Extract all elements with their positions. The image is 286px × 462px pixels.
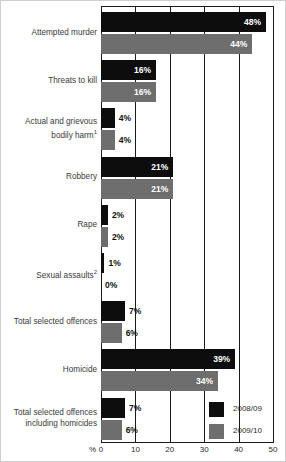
bar-value-label: 6% [126, 323, 138, 343]
legend-label: 2008/09 [233, 404, 262, 413]
x-tick-label-20: 20 [165, 445, 174, 454]
bar-value-label: 7% [129, 301, 141, 321]
legend-item[interactable]: 2008/09 [209, 400, 281, 422]
bar-2008-09 [101, 12, 266, 32]
legend-swatch-icon [209, 424, 224, 439]
category-label: Attempted murder [5, 28, 97, 39]
bar-value-label: 4% [119, 130, 131, 150]
bar-2008-09 [101, 205, 108, 225]
bar-value-label: 44% [230, 34, 247, 54]
bar-2008-09 [101, 398, 125, 418]
x-tick-label-50: 50 [269, 445, 278, 454]
bar-value-label: 2% [112, 227, 124, 247]
bar-2009-10 [101, 227, 108, 247]
bar-row: 2%2% [101, 205, 273, 247]
bar-2008-09 [101, 253, 104, 273]
category-label: Rape [5, 220, 97, 231]
category-label: Actual and grievous bodily harm1 [5, 117, 97, 142]
legend-label: 2009/10 [233, 426, 262, 435]
legend-item[interactable]: 2009/10 [209, 422, 281, 444]
x-tick-label-10: 10 [131, 445, 140, 454]
bar-value-label: 4% [119, 108, 131, 128]
gridline-50 [273, 6, 274, 443]
chart-figure: 48%44%16%16%4%4%21%21%2%2%1%0%7%6%39%34%… [0, 0, 286, 462]
bar-value-label: 16% [134, 60, 151, 80]
bar-row: 7%6% [101, 301, 273, 343]
bar-value-label: 1% [108, 253, 120, 273]
bar-2009-10 [101, 130, 115, 150]
bar-row: 4%4% [101, 108, 273, 150]
x-tick-label-0: 0 [99, 445, 103, 454]
bar-value-label: 16% [134, 82, 151, 102]
bar-row: 21%21% [101, 157, 273, 199]
bar-value-label: 7% [129, 398, 141, 418]
bar-value-label: 0% [105, 275, 117, 295]
category-label: Total selected offences [5, 317, 97, 328]
bar-value-label: 6% [126, 420, 138, 440]
bar-value-label: 21% [151, 157, 168, 177]
x-axis-unit-label: % [89, 445, 96, 454]
bar-2009-10 [101, 323, 122, 343]
category-label: Threats to kill [5, 76, 97, 87]
bar-row: 1%0% [101, 253, 273, 295]
x-tick-label-40: 40 [234, 445, 243, 454]
plot-area: 48%44%16%16%4%4%21%21%2%2%1%0%7%6%39%34%… [101, 6, 273, 443]
bar-row: 16%16% [101, 60, 273, 102]
axis-top-line [101, 6, 273, 7]
bar-2008-09 [101, 301, 125, 321]
bar-value-label: 48% [244, 12, 261, 32]
bar-row: 39%34% [101, 349, 273, 391]
bar-value-label: 39% [213, 349, 230, 369]
bar-value-label: 34% [196, 371, 213, 391]
category-label: Sexual assaults2 [5, 267, 97, 281]
bar-row: 48%44% [101, 12, 273, 54]
x-axis: % 01020304050 [1, 445, 286, 461]
category-label: Homicide [5, 365, 97, 376]
bar-value-label: 2% [112, 205, 124, 225]
category-label: Total selected offences including homici… [5, 408, 97, 429]
chart-legend: 2008/092009/10 [209, 400, 281, 444]
bar-2008-09 [101, 108, 115, 128]
legend-swatch-icon [209, 402, 224, 417]
category-label: Robbery [5, 172, 97, 183]
bar-value-label: 21% [151, 179, 168, 199]
x-tick-label-30: 30 [200, 445, 209, 454]
bar-2009-10 [101, 420, 122, 440]
